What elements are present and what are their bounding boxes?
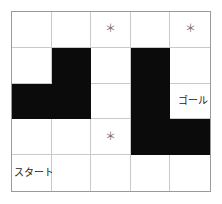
- maze-cell-path: [91, 48, 131, 84]
- maze-cell-path: [131, 12, 171, 48]
- maze-cell-path: ＊: [91, 12, 131, 48]
- maze-cell-path: [52, 119, 92, 155]
- maze-cell-path: [170, 155, 210, 191]
- maze-cell-path: [131, 155, 171, 191]
- maze-figure: ＊＊ゴール＊スタート: [0, 0, 222, 204]
- start-label: スタート: [14, 167, 50, 179]
- asterisk-icon: ＊: [91, 24, 130, 35]
- maze-cell-path: [12, 119, 52, 155]
- maze-cell-path: [52, 12, 92, 48]
- maze-cell-path: [91, 155, 131, 191]
- maze-cell-path: [91, 84, 131, 120]
- maze-cell-path: ゴール: [170, 84, 210, 120]
- maze-cell-wall: [131, 48, 171, 84]
- maze-cell-path: ＊: [170, 12, 210, 48]
- maze-cell-wall: [52, 84, 92, 120]
- asterisk-icon: ＊: [170, 24, 210, 35]
- maze-cell-path: [170, 48, 210, 84]
- maze-cell-path: スタート: [12, 155, 52, 191]
- goal-label: ゴール: [178, 95, 208, 107]
- maze-cell-path: ＊: [91, 119, 131, 155]
- maze-cell-path: [12, 48, 52, 84]
- maze-cell-path: [12, 12, 52, 48]
- maze-grid: ＊＊ゴール＊スタート: [11, 11, 211, 192]
- maze-cell-wall: [170, 119, 210, 155]
- maze-cell-wall: [131, 84, 171, 120]
- maze-cell-wall: [52, 48, 92, 84]
- asterisk-icon: ＊: [91, 131, 130, 142]
- maze-cell-path: [52, 155, 92, 191]
- maze-cell-wall: [12, 84, 52, 120]
- maze-cell-wall: [131, 119, 171, 155]
